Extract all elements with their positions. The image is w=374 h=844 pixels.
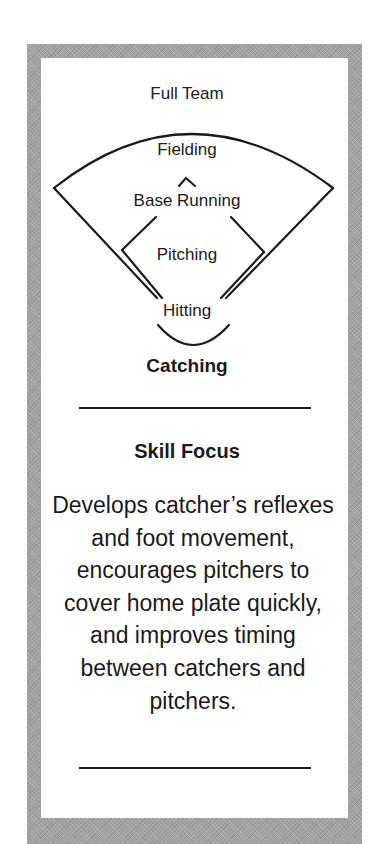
level-hitting: Hitting xyxy=(0,301,374,321)
level-fielding: Fielding xyxy=(0,140,374,160)
skill-focus-description: Develops catcher’s reflexes and foot mov… xyxy=(48,489,338,717)
divider-bottom xyxy=(79,767,311,769)
second-base-caret xyxy=(179,178,195,186)
divider-top xyxy=(79,407,311,409)
level-pitching: Pitching xyxy=(0,245,374,265)
level-base-running: Base Running xyxy=(0,191,374,211)
home-plate-arc xyxy=(158,325,229,345)
skill-focus-heading: Skill Focus xyxy=(0,440,374,463)
level-catching-highlighted: Catching xyxy=(0,355,374,377)
level-full-team: Full Team xyxy=(0,84,374,104)
baseball-field-diagram xyxy=(0,0,374,380)
